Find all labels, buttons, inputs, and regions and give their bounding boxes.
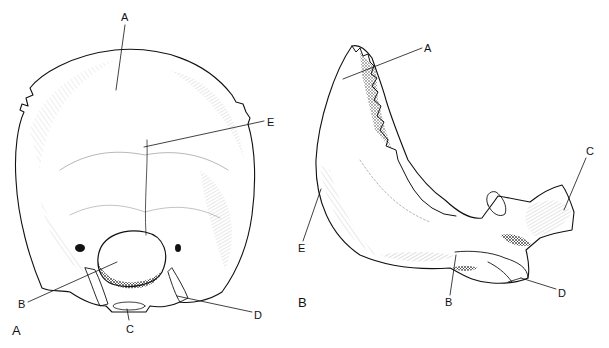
label-a-c: C xyxy=(126,323,134,335)
figure-canvas: A E B C D A A C xyxy=(0,0,609,348)
label-b-e: E xyxy=(298,242,305,254)
label-a-a: A xyxy=(121,11,129,23)
panel-a-illustration xyxy=(15,49,254,312)
label-a-e: E xyxy=(267,116,274,128)
label-b-d: D xyxy=(558,287,566,299)
label-b-c: C xyxy=(586,145,594,157)
panel-a-labels: A E B C D A xyxy=(12,11,274,338)
panel-label-b: B xyxy=(298,295,307,310)
panel-b-labels: A C E B D B xyxy=(298,42,594,310)
label-b-a: A xyxy=(424,42,432,54)
panel-a-leader-lines xyxy=(28,25,264,320)
label-a-b: B xyxy=(18,298,25,310)
label-a-d: D xyxy=(254,309,262,321)
panel-b-illustration xyxy=(316,46,574,284)
label-b-b: B xyxy=(445,296,452,308)
panel-label-a: A xyxy=(12,323,21,338)
